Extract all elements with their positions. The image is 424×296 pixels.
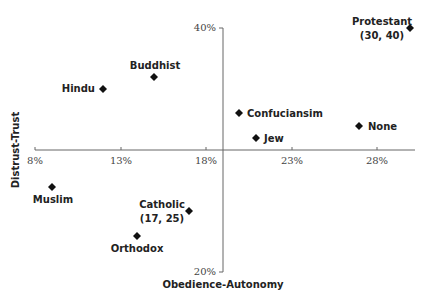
x-tick-label: 23% <box>281 155 303 166</box>
point-label-protestant: Protestant <box>352 16 412 27</box>
point-label-jew: Jew <box>263 133 284 144</box>
y-tick-label: 20% <box>194 266 216 277</box>
x-tick-label: 13% <box>110 155 132 166</box>
y-axis-title: Distrust-Trust <box>10 112 21 189</box>
diamond-marker-orthodox <box>133 232 141 240</box>
x-axis-title: Obedience-Autonomy <box>162 279 284 290</box>
point-label-none: None <box>368 121 397 132</box>
point-label-catholic: Catholic <box>139 199 185 210</box>
point-sublabel-catholic: (17, 25) <box>140 213 184 224</box>
x-tick-label: 18% <box>195 155 217 166</box>
point-label-orthodox: Orthodox <box>111 243 164 254</box>
x-tick-label: 28% <box>366 155 388 166</box>
diamond-marker-hindu <box>99 85 107 93</box>
diamond-marker-jew <box>252 134 260 142</box>
diamond-marker-buddhist <box>150 73 158 81</box>
point-label-muslim: Muslim <box>33 194 73 205</box>
diamond-marker-none <box>355 122 363 130</box>
point-label-buddhist: Buddhist <box>130 60 181 71</box>
point-label-confuciansim: Confuciansim <box>247 108 323 119</box>
diamond-marker-confuciansim <box>235 109 243 117</box>
point-sublabel-protestant: (30, 40) <box>360 30 404 41</box>
diamond-marker-catholic <box>185 207 193 215</box>
scatter-chart: 8% 13% 18% 23% 28% 40% 20% Obedience-Aut… <box>0 0 424 296</box>
y-tick-label: 40% <box>194 22 216 33</box>
diamond-marker-muslim <box>48 183 56 191</box>
point-label-hindu: Hindu <box>62 83 95 94</box>
x-tick-label: 8% <box>27 155 43 166</box>
